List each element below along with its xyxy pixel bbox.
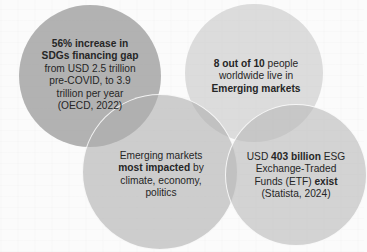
stat-highlight: exist [314, 176, 337, 187]
stat-highlight: SDGs financing gap [42, 50, 139, 61]
esg-etf-text: USD 403 billion ESG Exchange-Traded Fund… [232, 151, 360, 201]
stat-line: Exchange-Traded [232, 163, 360, 175]
stat-line: pre-COVID, to 3.9 [24, 75, 156, 87]
sdg-financing-gap-text: 56% increase in SDGs financing gap from … [24, 38, 156, 112]
stat-line: worldwide live in [192, 70, 320, 82]
stat-highlight: 8 out of 10 [214, 58, 265, 69]
stat-line: politics [92, 187, 230, 199]
stat-source: (Statista, 2024) [232, 188, 360, 200]
stat-line: from USD 2.5 trillion [24, 63, 156, 75]
stat-line: ESG [321, 151, 345, 162]
stat-line: Emerging markets [92, 150, 230, 162]
stat-highlight: Emerging markets [212, 83, 301, 94]
stat-line: people [265, 58, 298, 69]
stat-highlight: 403 billion [271, 151, 321, 162]
stat-highlight: most impacted [118, 162, 190, 173]
stat-line: trillion per year [24, 88, 156, 100]
population-emerging-markets-text: 8 out of 10 people worldwide live in Eme… [192, 58, 320, 95]
emerging-markets-impact-text: Emerging markets most impacted by climat… [92, 150, 230, 200]
stat-source: (OECD, 2022) [24, 100, 156, 112]
stat-line: by [190, 162, 204, 173]
stat-highlight: 56% increase in [52, 38, 128, 49]
stat-line: USD [247, 151, 271, 162]
stat-line: Funds (ETF) [254, 176, 314, 187]
stat-line: climate, economy, [92, 175, 230, 187]
